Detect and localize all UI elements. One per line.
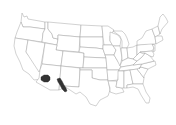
states-layer (14, 13, 168, 106)
highlighted-area-southern-arizona[interactable] (41, 75, 50, 82)
state-ma-ct-ri[interactable] (155, 36, 163, 44)
state-wy[interactable] (56, 35, 80, 52)
state-co[interactable] (61, 51, 84, 68)
us-map (0, 0, 176, 125)
state-me[interactable] (158, 14, 168, 34)
state-nd[interactable] (80, 25, 103, 37)
state-fl[interactable] (127, 84, 150, 103)
state-wa[interactable] (21, 13, 45, 29)
state-ar[interactable] (107, 70, 119, 81)
state-ks[interactable] (83, 57, 107, 68)
